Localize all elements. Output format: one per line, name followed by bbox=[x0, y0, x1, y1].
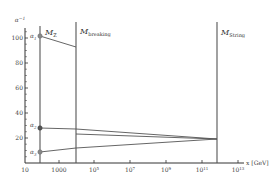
alpha2-line bbox=[40, 128, 217, 139]
x-tick-1e9: 109 bbox=[161, 166, 172, 174]
alpha3-label: α3 bbox=[30, 148, 37, 157]
x-tick-1e11: 1011 bbox=[196, 166, 209, 174]
y-axis-label: α−1 bbox=[15, 16, 26, 24]
y-tick-80: 80 bbox=[15, 59, 23, 66]
alpha2-prime-line bbox=[76, 134, 217, 139]
mbreaking-label: Mbreaking bbox=[79, 27, 112, 38]
alpha3-marker bbox=[38, 150, 42, 154]
x-tick-1e7: 107 bbox=[125, 166, 136, 174]
x-tick-1e13: 1013 bbox=[232, 166, 245, 174]
alpha2-marker bbox=[38, 126, 42, 130]
alpha3-line bbox=[40, 139, 217, 152]
alpha1-label: α1 bbox=[30, 32, 37, 41]
mz-label: MZ bbox=[44, 28, 57, 38]
x-tick-1000: 1000 bbox=[51, 166, 66, 173]
y-tick-60: 60 bbox=[15, 84, 23, 91]
y-tick-20: 20 bbox=[15, 134, 23, 141]
coupling-unification-chart: 20 40 60 80 100 α−1 10 1000 105 107 109 … bbox=[0, 0, 279, 180]
alpha2-label: α2 bbox=[30, 121, 37, 130]
x-axis-label: x [GeV] bbox=[246, 159, 269, 166]
coupling-series bbox=[40, 36, 217, 152]
axes bbox=[25, 28, 244, 163]
x-tick-1e5: 105 bbox=[89, 166, 100, 174]
alpha1-line bbox=[40, 36, 76, 47]
vertical-scale-lines bbox=[40, 22, 217, 163]
x-tick-10: 10 bbox=[21, 166, 29, 173]
alpha1-marker bbox=[38, 34, 42, 38]
mstring-label: MString bbox=[220, 28, 246, 39]
y-tick-labels: 20 40 60 80 100 bbox=[12, 34, 24, 141]
y-tick-100: 100 bbox=[12, 34, 24, 41]
x-tick-labels: 10 1000 105 107 109 1011 1013 bbox=[21, 166, 245, 174]
y-axis-label-sup: −1 bbox=[19, 16, 26, 21]
y-tick-40: 40 bbox=[15, 109, 23, 116]
